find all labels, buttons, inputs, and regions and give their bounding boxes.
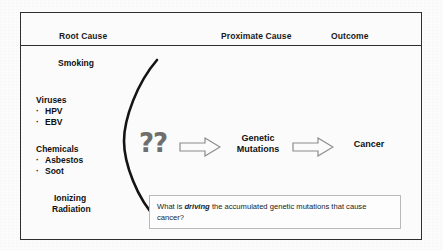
arrow-right-icon — [179, 137, 221, 157]
proximate-cause-label: Genetic Mutations — [225, 133, 291, 155]
arrow-right-icon — [292, 137, 334, 157]
caption-text-part1: What is — [157, 202, 184, 211]
unknown-mechanism-label: ?? — [139, 130, 167, 156]
proximate-cause-line1: Genetic — [225, 133, 291, 144]
caption-emphasis: driving — [184, 202, 209, 211]
caption-box: What is driving the accumulated genetic … — [149, 195, 401, 229]
outcome-label: Cancer — [339, 139, 399, 150]
proximate-cause-line2: Mutations — [225, 144, 291, 155]
diagram-frame: Root Cause Proximate Cause Outcome Smoki… — [20, 12, 422, 240]
